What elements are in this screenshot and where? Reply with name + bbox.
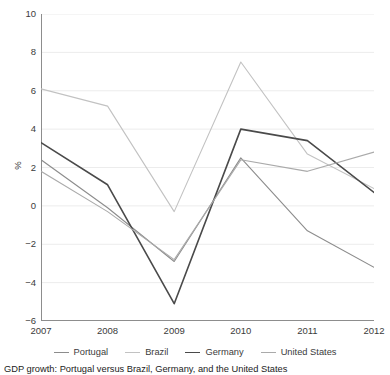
x-tick-label: 2010 (230, 326, 251, 336)
x-tick-label: 2008 (97, 326, 118, 336)
y-tick-label: 6 (31, 86, 36, 96)
legend-label: Germany (205, 348, 243, 357)
legend-label: United States (281, 348, 337, 357)
chart-canvas (41, 14, 374, 321)
x-tick-label: 2009 (164, 326, 185, 336)
legend-label: Portugal (74, 348, 109, 357)
legend-swatch-icon (54, 352, 69, 353)
y-tick-label: −2 (25, 239, 36, 249)
y-tick-label: 4 (31, 124, 36, 134)
legend-item-germany[interactable]: Germany (185, 348, 243, 357)
y-tick-label: −4 (25, 278, 36, 288)
figure-caption: GDP growth: Portugal versus Brazil, Germ… (4, 364, 390, 375)
legend-swatch-icon (125, 352, 140, 353)
x-tick-label: 2007 (30, 326, 51, 336)
y-tick-label: 2 (31, 163, 36, 173)
figure: 1086420−2−4−6 % 200720082009201020112012… (0, 0, 390, 375)
plot-area (41, 14, 374, 321)
x-axis-tick-labels: 200720082009201020112012 (41, 323, 374, 339)
series-line-brazil (41, 62, 374, 212)
x-tick-label: 2011 (297, 326, 317, 336)
y-tick-label: 8 (31, 47, 36, 57)
legend-item-portugal[interactable]: Portugal (54, 348, 109, 357)
y-axis-label: % (12, 146, 23, 186)
y-tick-label: 0 (31, 201, 36, 211)
x-tick-label: 2012 (363, 326, 384, 336)
legend-item-united-states[interactable]: United States (261, 348, 337, 357)
legend-swatch-icon (261, 352, 276, 353)
y-tick-label: 10 (25, 9, 36, 19)
legend-swatch-icon (185, 352, 200, 353)
legend-item-brazil[interactable]: Brazil (125, 348, 168, 357)
legend-label: Brazil (145, 348, 168, 357)
series-line-germany (41, 129, 374, 304)
y-axis-tick-labels: 1086420−2−4−6 (0, 0, 36, 375)
chart-legend: PortugalBrazilGermanyUnited States (0, 345, 390, 361)
